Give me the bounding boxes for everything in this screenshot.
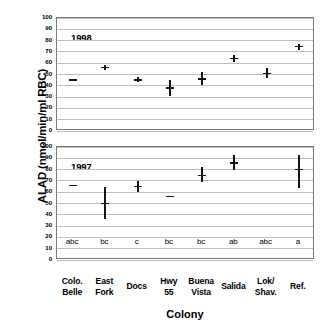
y-axis-tick-label: 20 xyxy=(0,233,52,239)
y-axis-tick-label: 30 xyxy=(0,93,52,99)
data-point-marker xyxy=(69,185,77,187)
gridline xyxy=(57,248,313,249)
x-tick-label-line: Ref. xyxy=(278,281,318,292)
gridline xyxy=(57,192,313,193)
panel-tag-1997: 1997 xyxy=(71,161,92,172)
data-point-marker xyxy=(134,186,142,188)
data-point-marker xyxy=(295,169,303,171)
data-point-marker xyxy=(263,73,271,75)
data-point-marker xyxy=(166,87,174,89)
gridline xyxy=(57,85,313,86)
gridline xyxy=(57,226,313,227)
gridline xyxy=(57,40,313,41)
gridline xyxy=(57,147,313,148)
gridline xyxy=(57,131,313,132)
data-point-marker xyxy=(101,67,109,69)
y-axis-tick-label: 90 xyxy=(0,25,52,31)
gridline xyxy=(57,63,313,64)
gridline xyxy=(57,158,313,159)
y-axis-tick-label: 50 xyxy=(0,71,52,77)
significance-letter: abc xyxy=(250,237,282,246)
y-axis-tick-label: 100 xyxy=(0,14,52,20)
data-point-marker xyxy=(101,203,109,205)
data-point-marker xyxy=(198,78,206,80)
significance-letter: bc xyxy=(185,237,217,246)
gridline xyxy=(57,203,313,204)
significance-letter: a xyxy=(282,237,314,246)
significance-letter: bc xyxy=(153,237,185,246)
error-bar xyxy=(298,155,300,188)
data-point-marker xyxy=(295,46,303,48)
y-axis-tick-label: 80 xyxy=(0,37,52,43)
chart-figure: ALAD (nmol/min/ml RBC) 01020304050607080… xyxy=(0,0,323,334)
data-point-marker xyxy=(69,79,77,81)
gridline xyxy=(57,74,313,75)
y-axis-tick-label: 10 xyxy=(0,245,52,251)
data-point-marker xyxy=(230,162,238,164)
significance-letter: c xyxy=(121,237,153,246)
y-axis-tick-label: 100 xyxy=(0,143,52,149)
gridline xyxy=(57,29,313,30)
data-point-marker xyxy=(166,196,174,198)
y-axis-tick-label: 70 xyxy=(0,177,52,183)
y-axis-tick-label: 50 xyxy=(0,200,52,206)
data-point-marker xyxy=(198,175,206,177)
panel-tag-1998: 1998 xyxy=(71,32,92,43)
plot-panel-1998: 1998 xyxy=(56,17,314,130)
x-axis-title: Colony xyxy=(56,308,314,320)
data-point-marker xyxy=(230,58,238,60)
significance-letter: bc xyxy=(88,237,120,246)
y-axis-tick-label: 60 xyxy=(0,188,52,194)
y-axis-tick-label: 70 xyxy=(0,48,52,54)
significance-letter: abc xyxy=(56,237,88,246)
gridline xyxy=(57,260,313,261)
y-axis-tick-label: 20 xyxy=(0,104,52,110)
y-axis-tick-label: 0 xyxy=(0,256,52,262)
gridline xyxy=(57,97,313,98)
gridline xyxy=(57,180,313,181)
y-axis-tick-label: 10 xyxy=(0,116,52,122)
gridline xyxy=(57,108,313,109)
y-axis-tick-label: 40 xyxy=(0,82,52,88)
y-axis-tick-label: 80 xyxy=(0,166,52,172)
data-point-marker xyxy=(134,79,142,81)
gridline xyxy=(57,119,313,120)
gridline xyxy=(57,214,313,215)
gridline xyxy=(57,51,313,52)
gridline xyxy=(57,169,313,170)
y-axis-tick-label: 0 xyxy=(0,127,52,133)
x-tick-label: Ref. xyxy=(278,281,318,292)
y-axis-tick-label: 30 xyxy=(0,222,52,228)
gridline xyxy=(57,18,313,19)
y-axis-tick-label: 90 xyxy=(0,154,52,160)
significance-letter: ab xyxy=(217,237,249,246)
y-axis-tick-label: 60 xyxy=(0,59,52,65)
y-axis-tick-label: 40 xyxy=(0,211,52,217)
